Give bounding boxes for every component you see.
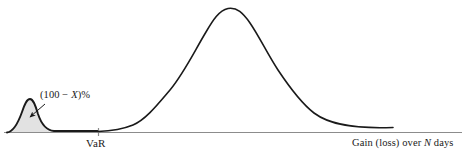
- tail-probability-suffix: )%: [78, 89, 90, 100]
- x-axis-label-suffix: days: [431, 137, 453, 148]
- x-axis-label-prefix: Gain (loss) over: [352, 137, 424, 148]
- x-axis-label: Gain (loss) over N days: [352, 138, 453, 149]
- var-distribution-figure: (100 − X)% VaR Gain (loss) over N days: [0, 0, 465, 165]
- tail-probability-prefix: (100 −: [40, 89, 71, 100]
- tail-probability-label: (100 − X)%: [40, 90, 90, 101]
- var-axis-label: VaR: [86, 138, 106, 149]
- main-distribution-curve: [98, 8, 393, 131]
